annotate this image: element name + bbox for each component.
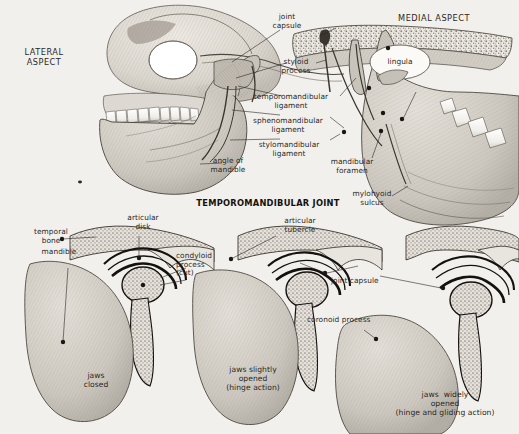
medial-aspect-heading: MEDIAL ASPECT xyxy=(398,13,470,23)
caption-jaws-closed: jaws closed xyxy=(84,371,109,389)
label-sphenomandibular-ligament: sphenomandibular ligament xyxy=(253,117,323,134)
label-mandible: mandible xyxy=(42,248,77,257)
label-temporal-bone: temporal bone xyxy=(34,228,68,245)
label-styloid-process: styloid process xyxy=(282,58,311,75)
label-articular-disk: articular disk xyxy=(127,214,158,231)
label-stylomandibular-ligament: stylomandibular ligament xyxy=(259,141,320,158)
plate-title: TEMPOROMANDIBULAR JOINT xyxy=(196,198,339,208)
caption-jaws-slightly-opened: jaws slightly opened (hinge action) xyxy=(226,365,280,393)
caption-jaws-widely-opened: jaws widely opened (hinge and gliding ac… xyxy=(396,390,495,418)
label-articular-tubercle: articular tubercle xyxy=(284,217,315,234)
label-mylohyoid-sulcus: mylohyoid sulcus xyxy=(353,190,392,207)
label-coronoid-process: coronoid process xyxy=(307,316,370,325)
label-lingula: lingula xyxy=(387,58,412,67)
lateral-aspect-heading: LATERAL ASPECT xyxy=(25,47,64,67)
label-mandibular-foramen: mandibular foramen xyxy=(331,158,374,175)
label-angle-of-mandible: angle of mandible xyxy=(211,157,246,174)
label-joint-capsule-detail: joint capsule xyxy=(331,277,379,286)
anatomy-plate: LATERAL ASPECT MEDIAL ASPECT joint capsu… xyxy=(0,0,519,434)
label-condyloid-process: condyloid process (cut) xyxy=(176,252,212,278)
label-joint-capsule-top: joint capsule xyxy=(273,13,302,30)
label-temporomandibular-ligament: temporomandibular ligament xyxy=(254,93,328,110)
